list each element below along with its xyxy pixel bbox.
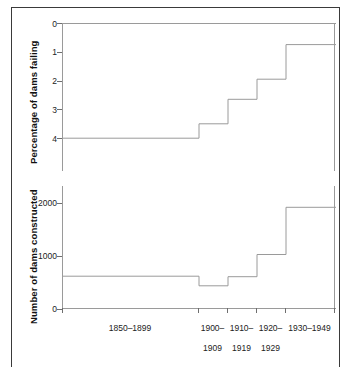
bottom-panel-step-line <box>63 186 336 309</box>
y-tick-label: 1 <box>40 48 57 57</box>
top-panel: Percentage of dams failing 0 1 2 3 4 <box>12 8 341 186</box>
x-axis-label-line1: 1910– <box>230 323 254 333</box>
x-axis-label: 1850–1899 <box>62 313 198 333</box>
top-panel-plot-area <box>62 23 335 171</box>
x-axis-label-line1: 1900– <box>201 323 225 333</box>
x-axis-label-line1: 1850–1899 <box>109 323 152 333</box>
bottom-panel: Number of dams constructed 2000 1000 0 <box>12 186 341 331</box>
x-axis-label: 1900– 1909 <box>198 313 227 353</box>
y-tick-label: 2000 <box>30 199 57 208</box>
bottom-panel-plot-area <box>62 186 335 309</box>
y-tick-label: 3 <box>40 106 57 115</box>
top-panel-step-line <box>63 23 336 171</box>
x-axis-label-line2: 1929 <box>261 343 280 353</box>
x-axis-label-line2: 1919 <box>232 343 251 353</box>
x-axis-label: 1930–1949 <box>285 313 334 333</box>
top-panel-y-axis-title: Percentage of dams failing <box>28 41 39 165</box>
y-tick-label: 2 <box>40 77 57 86</box>
x-axis-label-line1: 1920– <box>259 323 283 333</box>
x-axis-label: 1920– 1929 <box>256 313 285 353</box>
x-axis-label: 1910– 1919 <box>227 313 256 353</box>
y-tick-label: 4 <box>40 135 57 144</box>
x-tick-mark <box>334 308 335 313</box>
x-axis-label-line2: 1909 <box>203 343 222 353</box>
x-axis-label-line1: 1930–1949 <box>288 323 331 333</box>
y-tick-label: 0 <box>30 305 57 314</box>
y-tick-label: 0 <box>40 20 57 29</box>
figure-frame: Percentage of dams failing 0 1 2 3 4 Nu <box>11 7 340 367</box>
y-tick-label: 1000 <box>30 252 57 261</box>
